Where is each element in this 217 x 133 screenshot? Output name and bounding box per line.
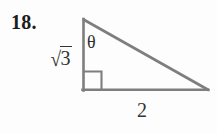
base-length-label: 2 — [137, 100, 147, 120]
theta-angle-label: θ — [87, 33, 96, 51]
figure-canvas: 18. √3 θ 2 — [0, 0, 217, 133]
radical-sign-icon: √ — [50, 49, 61, 70]
radical-expression: √3 — [49, 46, 72, 69]
vertical-leg-length-label: √3 — [49, 46, 72, 69]
right-angle-marker-icon — [84, 72, 102, 90]
problem-number-label: 18. — [11, 12, 37, 32]
